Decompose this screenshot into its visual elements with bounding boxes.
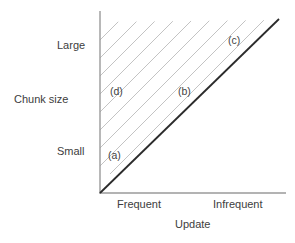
diagonal-boundary-line xyxy=(100,19,279,193)
region-label-b: (b) xyxy=(178,86,191,97)
hatch-fill xyxy=(0,4,295,174)
y-tick-label-large: Large xyxy=(57,40,85,51)
region-label-c: (c) xyxy=(228,35,240,46)
region-label-d: (d) xyxy=(110,86,123,97)
region-label-a: (a) xyxy=(108,150,121,161)
figure-container: Large Small Chunk size Frequent Infreque… xyxy=(0,0,295,243)
y-tick-label-small: Small xyxy=(57,146,85,157)
x-axis-title: Update xyxy=(175,219,210,230)
y-axis-title: Chunk size xyxy=(14,94,68,105)
x-tick-label-infrequent: Infrequent xyxy=(213,199,263,210)
x-tick-label-frequent: Frequent xyxy=(117,199,161,210)
